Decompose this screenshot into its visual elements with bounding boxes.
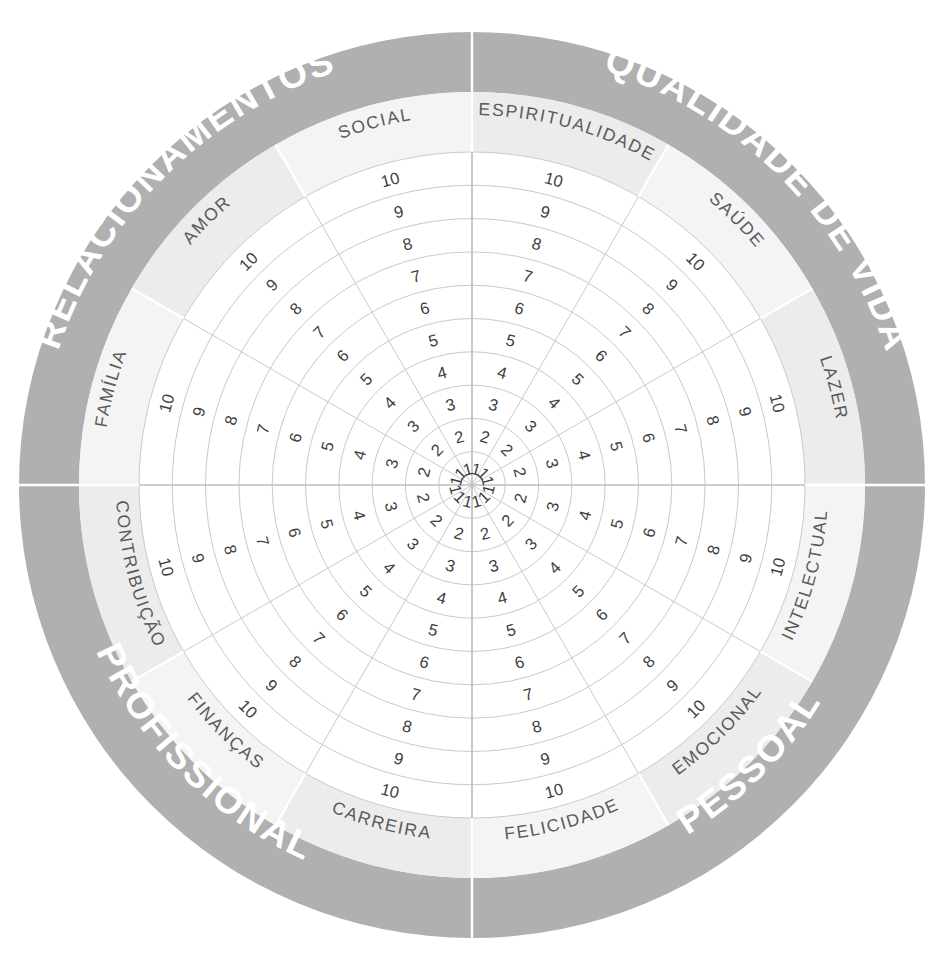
wheel-of-life-chart: QUALIDADE DE VIDAPESSOALPROFISSIONALRELA…	[0, 0, 941, 970]
wheel-svg: QUALIDADE DE VIDAPESSOALPROFISSIONALRELA…	[0, 0, 941, 970]
